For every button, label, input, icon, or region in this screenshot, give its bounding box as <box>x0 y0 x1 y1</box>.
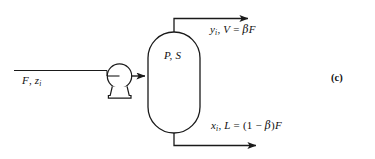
liquid-label-open-paren: (1 <box>243 119 253 131</box>
liquid-stream-label: xi, L = (1 − β)F <box>211 119 282 133</box>
figure-part-label: (c) <box>331 72 343 83</box>
liquid-label-comma: , <box>218 119 221 131</box>
liquid-label-equals: = <box>234 119 240 131</box>
pump-base-icon <box>108 87 131 99</box>
feed-label-sub: i <box>39 79 41 88</box>
vapor-label-F: F <box>249 23 256 35</box>
vapor-stream-label: yi, V = βF <box>210 23 256 37</box>
feed-label-comma: , <box>29 74 32 86</box>
vapor-label-V: V <box>223 23 230 35</box>
liquid-label-minus: − <box>255 119 261 131</box>
feed-stream-label: F, zi <box>22 74 42 88</box>
vapor-label-comma: , <box>217 23 220 35</box>
vapor-label-equals: = <box>233 23 239 35</box>
vessel-interior-label: P, S <box>164 49 181 61</box>
process-flow-diagram <box>0 0 375 159</box>
feed-label-F: F <box>22 74 29 86</box>
liquid-label-F: F <box>275 119 282 131</box>
liquid-label-L: L <box>224 119 230 131</box>
liquid-outlet-line <box>174 133 256 146</box>
flash-drum-vessel <box>148 32 200 133</box>
